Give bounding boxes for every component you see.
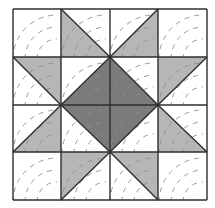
quilt-block-canvas — [0, 0, 215, 208]
quilt-block-diagram — [0, 0, 215, 208]
